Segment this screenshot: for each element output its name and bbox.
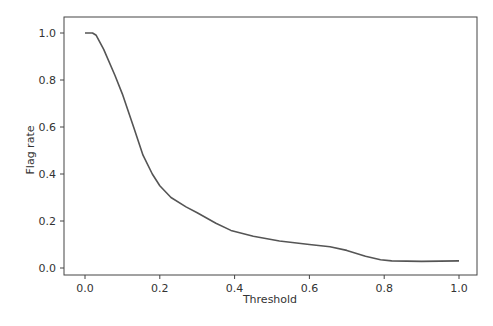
y-tick-label: 1.0 xyxy=(39,27,57,40)
y-tick-label: 0.8 xyxy=(39,74,57,87)
y-axis-label: Flag rate xyxy=(24,125,37,174)
y-tick-label: 0.2 xyxy=(39,215,57,228)
y-tick-label: 0.4 xyxy=(39,168,57,181)
x-tick-label: 0.8 xyxy=(375,282,393,295)
x-axis-label: Threshold xyxy=(242,293,297,306)
y-tick-label: 0.0 xyxy=(39,262,57,275)
x-axis: 0.00.20.40.60.81.0 xyxy=(76,275,468,295)
x-tick-label: 0.4 xyxy=(226,282,244,295)
plot-area xyxy=(64,17,477,275)
flag-rate-chart: 0.00.20.40.60.81.0 0.00.20.40.60.81.0 Th… xyxy=(0,0,493,326)
x-tick-label: 0.2 xyxy=(151,282,169,295)
y-axis: 0.00.20.40.60.81.0 xyxy=(39,27,65,275)
x-tick-label: 0.0 xyxy=(76,282,94,295)
y-tick-label: 0.6 xyxy=(39,121,57,134)
x-tick-label: 0.6 xyxy=(301,282,319,295)
x-tick-label: 1.0 xyxy=(450,282,468,295)
